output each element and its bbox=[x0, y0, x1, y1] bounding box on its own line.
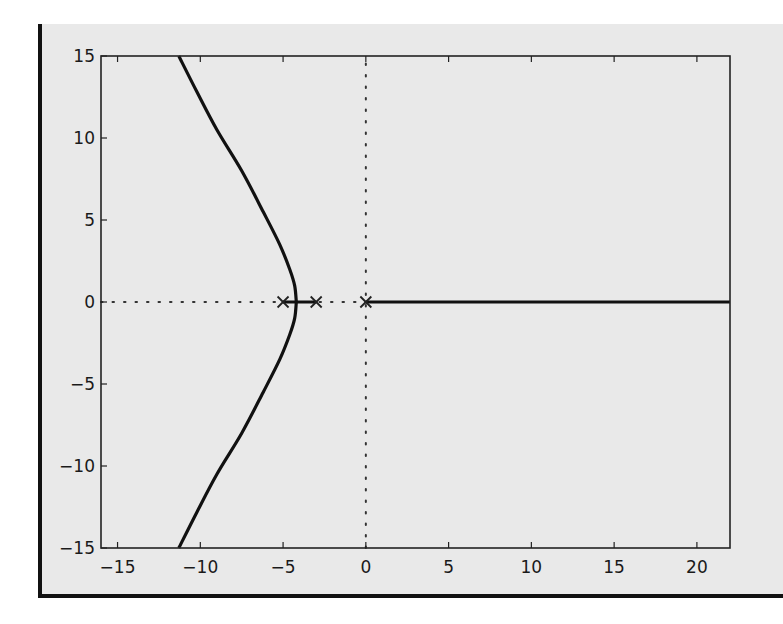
upper-branch bbox=[179, 56, 297, 302]
x-tick-label: −10 bbox=[182, 557, 218, 577]
y-tick-label: −5 bbox=[70, 374, 95, 394]
y-tick-label: −10 bbox=[59, 456, 95, 476]
x-tick-label: −5 bbox=[271, 557, 296, 577]
y-tick-label: 15 bbox=[73, 46, 95, 66]
x-axis: −15−10−505101520 bbox=[100, 56, 708, 577]
x-tick-label: 20 bbox=[686, 557, 708, 577]
y-tick-label: 5 bbox=[84, 210, 95, 230]
y-tick-label: 10 bbox=[73, 128, 95, 148]
y-axis: 151050−5−10−15 bbox=[59, 46, 107, 558]
x-tick-label: 5 bbox=[443, 557, 454, 577]
x-tick-label: 15 bbox=[603, 557, 625, 577]
reference-lines bbox=[101, 56, 366, 548]
x-tick-label: 10 bbox=[521, 557, 543, 577]
x-tick-label: 0 bbox=[360, 557, 371, 577]
lower-branch bbox=[179, 302, 297, 548]
y-tick-label: −15 bbox=[59, 538, 95, 558]
x-tick-label: −15 bbox=[100, 557, 136, 577]
y-tick-label: 0 bbox=[84, 292, 95, 312]
